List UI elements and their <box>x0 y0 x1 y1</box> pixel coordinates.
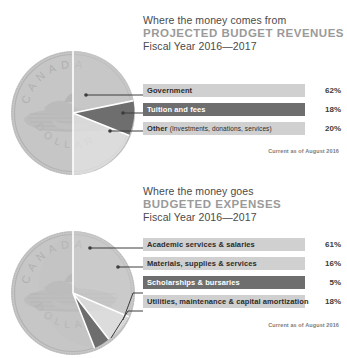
revenues-heading-title: PROJECTED BUDGET REVENUES <box>143 27 344 39</box>
expenses-bar-label: Materials, supplies & services <box>147 257 257 270</box>
revenues-bar-label-detail: (Investments, donations, services) <box>170 125 272 132</box>
expenses-bar-academic-services-salaries: Academic services & salaries <box>143 238 305 251</box>
expenses-section: CANADA DOLLAR Where the money goes BUDGE <box>0 175 347 340</box>
expenses-footnote: Current as of August 2016 <box>268 322 339 328</box>
revenues-heading: Where the money comes from PROJECTED BUD… <box>143 14 344 52</box>
expenses-heading-title: BUDGETED EXPENSES <box>143 198 281 210</box>
expenses-bar-percent: 16% <box>313 257 341 270</box>
revenues-footnote: Current as of August 2016 <box>268 148 339 154</box>
revenues-bar-tuition-and-fees: Tuition and fees <box>143 103 305 116</box>
revenues-bar-label-main: Other <box>147 124 168 133</box>
expenses-pie-svg: CANADA DOLLAR <box>8 228 138 358</box>
revenues-bar-government: Government <box>143 84 305 97</box>
revenues-heading-fiscal-year: Fiscal Year 2016—2017 <box>143 40 344 52</box>
expenses-bar-label: Utilities, maintenance & capital amortiz… <box>147 295 309 308</box>
revenues-bar-label: Other (Investments, donations, services) <box>147 122 272 135</box>
revenues-bar-percent: 20% <box>313 122 341 135</box>
expenses-heading: Where the money goes BUDGETED EXPENSES F… <box>143 185 281 223</box>
expenses-heading-fiscal-year: Fiscal Year 2016—2017 <box>143 211 281 223</box>
pie-wedges <box>73 51 134 175</box>
revenues-section: CANADA DOLLAR Where the money comes from <box>0 0 347 182</box>
revenues-bar-label: Government <box>147 84 192 97</box>
revenues-heading-subtitle: Where the money comes from <box>143 14 344 26</box>
revenues-bar-percent: 62% <box>313 84 341 97</box>
revenues-pie-svg: CANADA DOLLAR <box>8 48 138 178</box>
expenses-heading-subtitle: Where the money goes <box>143 185 281 197</box>
expenses-bar-percent: 61% <box>313 238 341 251</box>
revenues-bar-percent: 18% <box>313 103 341 116</box>
expenses-bar-label: Academic services & salaries <box>147 238 255 251</box>
revenues-bar-other: Other (Investments, donations, services) <box>143 122 305 135</box>
revenues-bar-label: Tuition and fees <box>147 103 206 116</box>
expenses-bar-scholarships-bursaries: Scholarships & bursaries <box>143 276 305 289</box>
expenses-bar-percent: 18% <box>313 295 341 308</box>
expenses-coin-chart: CANADA DOLLAR <box>8 228 138 358</box>
expenses-bar-label: Scholarships & bursaries <box>147 276 240 289</box>
expenses-bar-percent: 5% <box>313 276 341 289</box>
expenses-bar-materials-supplies-services: Materials, supplies & services <box>143 257 305 270</box>
expenses-bar-utilities-maintenance-capital-amortization: Utilities, maintenance & capital amortiz… <box>143 295 305 308</box>
revenues-coin-chart: CANADA DOLLAR <box>8 48 138 178</box>
